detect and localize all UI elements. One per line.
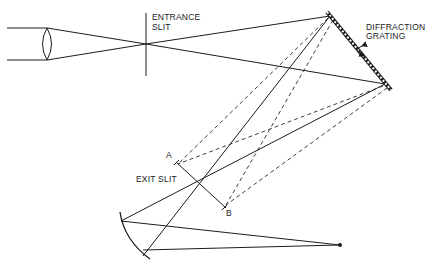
- point-a-label: A: [166, 150, 172, 160]
- diffracted-rays-solid: [121, 16, 385, 256]
- entrance-slit-label-1: ENTRANCE: [152, 12, 200, 22]
- lens-icon: [43, 28, 52, 60]
- focused-rays: [121, 221, 340, 250]
- exit-slit: [174, 160, 227, 210]
- monochromator-diagram: ENTRANCE SLIT DIFFRACTION GRATING EXIT S…: [0, 0, 435, 268]
- incoming-beam: [7, 28, 47, 60]
- exit-slit-label: EXIT SLIT: [136, 174, 177, 184]
- entrance-slit-label-2: SLIT: [152, 22, 171, 32]
- point-b-label: B: [226, 208, 232, 218]
- beam-to-grating: [47, 16, 385, 84]
- grating-label-2: GRATING: [366, 31, 406, 41]
- focal-point: [338, 243, 342, 247]
